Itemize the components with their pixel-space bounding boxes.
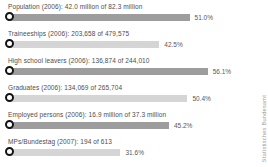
bar-line: 50.4%: [8, 94, 268, 102]
bar-mps-bundestag: [8, 149, 120, 156]
percent-value: 51.0%: [195, 14, 213, 21]
chart-row-population: Population (2006): 42.0 million of 82.3 …: [8, 2, 268, 21]
circle-marker-icon: [5, 120, 14, 129]
row-label: Employed persons (2006): 16.9 million of…: [8, 110, 268, 119]
circle-marker-icon: [5, 66, 14, 75]
percent-value: 45.2%: [174, 122, 192, 129]
bar-line: 56.1%: [8, 67, 268, 75]
chart-row-graduates: Graduates (2006): 134,069 of 265,704 50.…: [8, 83, 268, 102]
bar-graduates: [8, 95, 187, 102]
bar-line: 45.2%: [8, 121, 268, 129]
percent-value: 31.6%: [125, 149, 143, 156]
bar-population: [8, 14, 190, 21]
bar-traineeships: [8, 41, 159, 48]
circle-marker-icon: [5, 147, 14, 156]
percent-value: 42.5%: [164, 41, 182, 48]
chart-row-mps-bundestag: MPs/Bundestag (2007): 194 of 613 31.6%: [8, 137, 268, 156]
circle-marker-icon: [5, 93, 14, 102]
circle-marker-icon: [5, 12, 14, 21]
row-label: Traineeships (2006): 203,658 of 479,575: [8, 29, 268, 38]
row-label: High school leavers (2006): 136,874 of 2…: [8, 56, 268, 65]
bar-line: 31.6%: [8, 148, 268, 156]
women-share-bar-chart: Population (2006): 42.0 million of 82.3 …: [0, 2, 268, 167]
bar-high-school-leavers: [8, 68, 208, 75]
row-label: MPs/Bundestag (2007): 194 of 613: [8, 137, 268, 146]
statistisches-bundesamt-watermark: Statistisches Bundesamt: [261, 95, 267, 162]
percent-value: 50.4%: [192, 95, 210, 102]
row-label: Population (2006): 42.0 million of 82.3 …: [8, 2, 268, 11]
bar-line: 51.0%: [8, 13, 268, 21]
circle-marker-icon: [5, 39, 14, 48]
row-label: Graduates (2006): 134,069 of 265,704: [8, 83, 268, 92]
bar-line: 42.5%: [8, 40, 268, 48]
bar-employed-persons: [8, 122, 169, 129]
percent-value: 56.1%: [213, 68, 231, 75]
chart-row-employed-persons: Employed persons (2006): 16.9 million of…: [8, 110, 268, 129]
chart-row-high-school-leavers: High school leavers (2006): 136,874 of 2…: [8, 56, 268, 75]
chart-row-traineeships: Traineeships (2006): 203,658 of 479,575 …: [8, 29, 268, 48]
